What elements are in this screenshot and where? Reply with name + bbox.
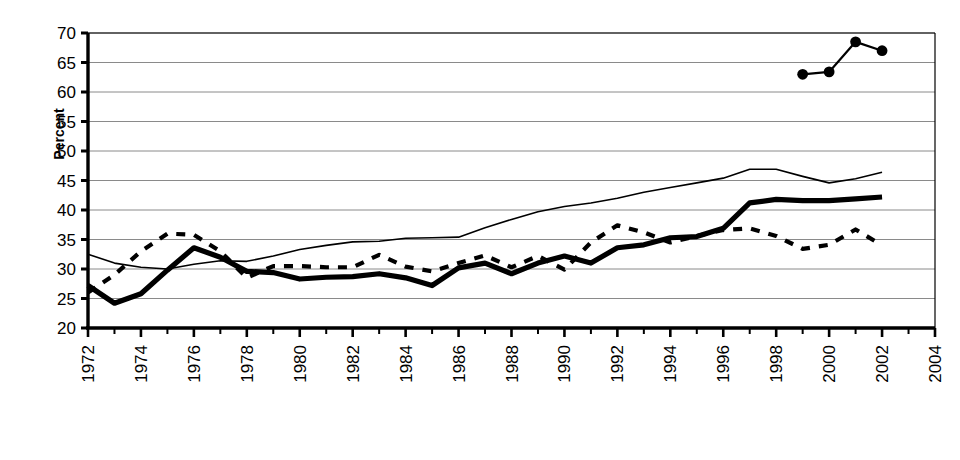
data-point xyxy=(877,45,888,56)
y-axis-tick-labels: 2025303540455055606570 xyxy=(57,24,76,338)
x-tick-label-2004: 2004 xyxy=(926,345,945,383)
y-tick-label-20: 20 xyxy=(57,319,76,338)
chart-page: Percent 2025303540455055606570 197219741… xyxy=(0,0,960,460)
x-tick-label-1998: 1998 xyxy=(767,345,786,383)
x-axis-tick-labels: 1972197419761978198019821984198619881990… xyxy=(79,345,945,383)
x-tick-label-2000: 2000 xyxy=(820,345,839,383)
y-tick-label-45: 45 xyxy=(57,172,76,191)
data-point xyxy=(797,69,808,80)
x-tick-label-1982: 1982 xyxy=(344,345,363,383)
series-layer xyxy=(88,36,887,303)
series-black xyxy=(88,197,882,303)
series-hispanic-of-any-race xyxy=(88,225,882,292)
series-asian-pacific-islander xyxy=(797,36,887,79)
line-chart-figure: 2025303540455055606570 19721974197619781… xyxy=(0,0,960,460)
x-tick-label-1972: 1972 xyxy=(79,345,98,383)
series-line xyxy=(88,197,882,303)
x-tick-label-1996: 1996 xyxy=(714,345,733,383)
y-tick-label-30: 30 xyxy=(57,260,76,279)
x-tick-label-1978: 1978 xyxy=(238,345,257,383)
x-tick-label-1984: 1984 xyxy=(397,345,416,383)
x-tick-label-1974: 1974 xyxy=(132,345,151,383)
chart-canvas: 2025303540455055606570 19721974197619781… xyxy=(0,0,960,460)
x-tick-label-1988: 1988 xyxy=(503,345,522,383)
y-tick-label-25: 25 xyxy=(57,290,76,309)
x-tick-label-1976: 1976 xyxy=(185,345,204,383)
y-tick-label-60: 60 xyxy=(57,83,76,102)
y-tick-label-50: 50 xyxy=(57,142,76,161)
series-line xyxy=(803,42,882,74)
series-line xyxy=(88,225,882,292)
x-tick-label-1994: 1994 xyxy=(661,345,680,383)
x-tick-label-1986: 1986 xyxy=(450,345,469,383)
x-tick-label-2002: 2002 xyxy=(873,345,892,383)
x-tick-label-1990: 1990 xyxy=(555,345,574,383)
y-tick-label-55: 55 xyxy=(57,113,76,132)
data-point xyxy=(850,36,861,47)
y-tick-label-65: 65 xyxy=(57,54,76,73)
data-point xyxy=(824,67,835,78)
x-tick-label-1992: 1992 xyxy=(608,345,627,383)
y-tick-label-35: 35 xyxy=(57,231,76,250)
y-tick-label-40: 40 xyxy=(57,201,76,220)
x-tick-label-1980: 1980 xyxy=(291,345,310,383)
y-tick-label-70: 70 xyxy=(57,24,76,43)
